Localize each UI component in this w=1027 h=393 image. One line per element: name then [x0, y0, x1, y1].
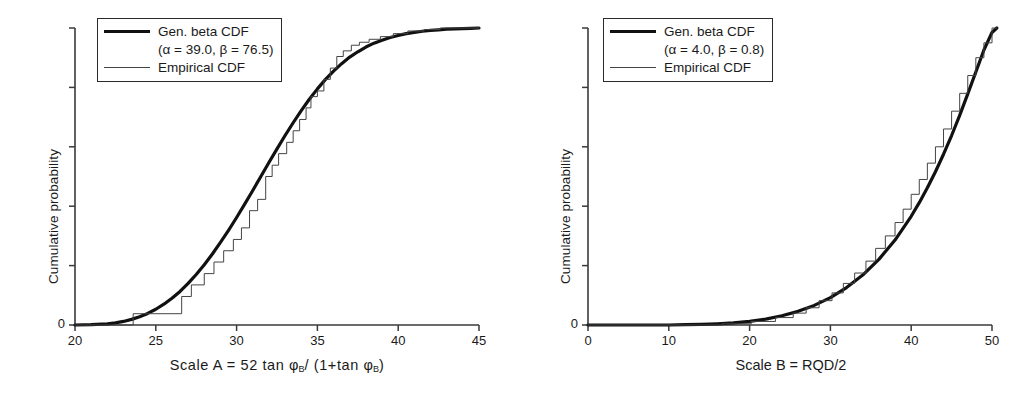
legend-swatch-thin-line-icon — [610, 67, 656, 68]
legend-label-empirical-left: Empirical CDF — [158, 59, 245, 77]
y-tick-label: 0 — [554, 316, 578, 331]
y-axis-label-left: Cumulative probability — [46, 149, 61, 284]
legend-swatch-thin-line-icon — [104, 67, 150, 68]
legend-label-fit-right: Gen. beta CDF — [664, 23, 755, 41]
figure-cdf-comparison: Cumulative probability Scale A = 52 tan … — [0, 0, 1027, 393]
y-axis-label-right: Cumulative probability — [558, 149, 573, 284]
x-tick-label: 35 — [297, 333, 337, 348]
x-tick-label: 0 — [568, 333, 608, 348]
x-tick-label: 45 — [459, 333, 499, 348]
x-tick-label: 10 — [649, 333, 689, 348]
legend-entry-fit-right: Gen. beta CDF — [610, 23, 764, 41]
legend-label-params-left: (α = 39.0, β = 76.5) — [158, 41, 273, 59]
x-tick-label: 30 — [217, 333, 257, 348]
x-tick-label: 40 — [891, 333, 931, 348]
legend-right: Gen. beta CDF (α = 4.0, β = 0.8) Empiric… — [603, 18, 773, 82]
x-tick-label: 40 — [378, 333, 418, 348]
x-axis-label-right: Scale B = RQD/2 — [588, 357, 994, 373]
legend-label-empirical-right: Empirical CDF — [664, 59, 751, 77]
legend-entry-fit-left: Gen. beta CDF — [104, 23, 273, 41]
x-tick-label: 20 — [730, 333, 770, 348]
y-tick-label: 0 — [41, 316, 65, 331]
plot-panel-right: Cumulative probability Scale B = RQD/2 G… — [513, 0, 1027, 393]
plot-panel-left: Cumulative probability Scale A = 52 tan … — [0, 0, 514, 393]
legend-swatch-thick-line-icon — [610, 30, 656, 33]
x-tick-label: 20 — [55, 333, 95, 348]
legend-label-params-right: (α = 4.0, β = 0.8) — [664, 41, 764, 59]
legend-entry-params-right: (α = 4.0, β = 0.8) — [610, 41, 764, 59]
legend-entry-empirical-right: Empirical CDF — [610, 59, 764, 77]
x-tick-label: 25 — [136, 333, 176, 348]
legend-label-fit-left: Gen. beta CDF — [158, 23, 249, 41]
legend-entry-params-left: (α = 39.0, β = 76.5) — [104, 41, 273, 59]
legend-swatch-thick-line-icon — [104, 30, 150, 33]
x-tick-label: 30 — [810, 333, 850, 348]
x-tick-label: 50 — [972, 333, 1012, 348]
legend-left: Gen. beta CDF (α = 39.0, β = 76.5) Empir… — [97, 18, 282, 82]
legend-entry-empirical-left: Empirical CDF — [104, 59, 273, 77]
x-axis-label-left: Scale A = 52 tan φB/ (1+tan φB) — [75, 357, 479, 374]
